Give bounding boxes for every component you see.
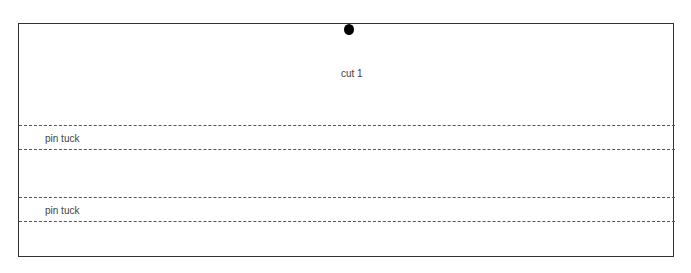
tuck-1-bottom-line — [19, 149, 675, 150]
notch-dot-icon — [344, 24, 354, 35]
cut-instruction: cut 1 — [341, 68, 363, 79]
tuck-1-top-line — [19, 125, 675, 126]
tuck-2-bottom-line — [19, 221, 675, 222]
tuck-1-label: pin tuck — [45, 133, 79, 144]
tuck-2-label: pin tuck — [45, 205, 79, 216]
tuck-2-top-line — [19, 197, 675, 198]
